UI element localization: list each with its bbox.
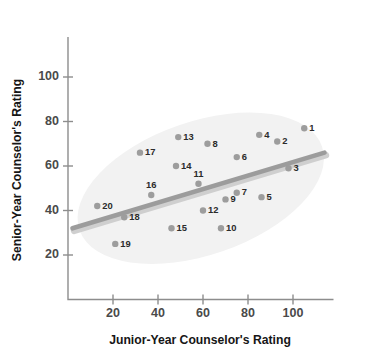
data-point-label: 17 bbox=[145, 146, 155, 157]
data-point-label: 8 bbox=[213, 138, 218, 149]
x-tick-label: 60 bbox=[196, 306, 210, 320]
data-point-dot bbox=[173, 163, 179, 169]
data-point-dot bbox=[234, 154, 240, 160]
data-point-dot bbox=[200, 207, 206, 213]
y-axis-title: Senior-Year Counselor's Rating bbox=[10, 79, 24, 261]
data-point-label: 9 bbox=[231, 193, 236, 204]
y-tick-label: 20 bbox=[45, 247, 59, 261]
data-point-label: 19 bbox=[120, 238, 130, 249]
data-point-label: 10 bbox=[226, 222, 236, 233]
data-point-dot bbox=[218, 225, 224, 231]
y-tick-label: 80 bbox=[45, 114, 59, 128]
y-tick-label: 60 bbox=[45, 158, 59, 172]
data-point-label: 12 bbox=[208, 204, 218, 215]
data-point-label: 13 bbox=[183, 131, 193, 142]
data-point-dot bbox=[258, 194, 264, 200]
data-point-dot bbox=[274, 138, 280, 144]
data-point-dot bbox=[204, 141, 210, 147]
data-point-dot bbox=[175, 134, 181, 140]
data-point-label: 14 bbox=[181, 160, 192, 171]
data-point-label: 2 bbox=[282, 135, 287, 146]
data-point-dot bbox=[112, 241, 118, 247]
data-point-label: 6 bbox=[242, 151, 247, 162]
data-point-label: 18 bbox=[129, 211, 139, 222]
data-point-dot bbox=[94, 203, 100, 209]
data-point-label: 16 bbox=[146, 179, 156, 190]
data-point-label: 20 bbox=[102, 200, 112, 211]
data-point-label: 11 bbox=[194, 168, 204, 179]
data-point-dot bbox=[168, 225, 174, 231]
data-point-dot bbox=[195, 181, 201, 187]
data-point-dot bbox=[285, 165, 291, 171]
data-point-label: 15 bbox=[177, 222, 187, 233]
data-point-dot bbox=[121, 214, 127, 220]
data-point-label: 7 bbox=[242, 186, 247, 197]
data-point-dot bbox=[301, 125, 307, 131]
y-tick-label: 100 bbox=[38, 69, 59, 83]
x-axis-title: Junior-Year Counselor's Rating bbox=[109, 333, 291, 347]
data-point-label: 5 bbox=[267, 191, 272, 202]
x-tick-label: 80 bbox=[241, 306, 255, 320]
data-point-dot bbox=[222, 196, 228, 202]
data-point-label: 1 bbox=[309, 122, 314, 133]
x-tick-label: 100 bbox=[283, 306, 304, 320]
data-point-label: 3 bbox=[294, 162, 299, 173]
x-tick-label: 40 bbox=[151, 306, 165, 320]
plot-canvas: 2040608010020406080100 12345678910111213… bbox=[0, 0, 371, 361]
scatter-plot-figure: 2040608010020406080100 12345678910111213… bbox=[0, 0, 371, 361]
data-point-dot bbox=[256, 132, 262, 138]
y-tick-label: 40 bbox=[45, 203, 59, 217]
data-point-dot bbox=[148, 192, 154, 198]
x-tick-label: 20 bbox=[106, 306, 120, 320]
data-point-label: 4 bbox=[264, 129, 270, 140]
data-point-dot bbox=[137, 149, 143, 155]
